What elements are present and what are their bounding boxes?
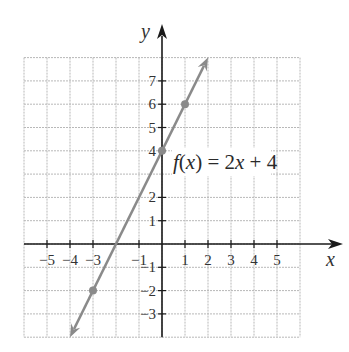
data-point [89, 287, 97, 295]
data-point [181, 100, 189, 108]
y-tick-label: −2 [140, 283, 156, 299]
x-tick-label: −5 [39, 252, 55, 268]
y-tick-label: 2 [149, 189, 157, 205]
x-tick-label: 2 [204, 252, 212, 268]
x-tick-label: 5 [273, 252, 281, 268]
x-tick-label: 1 [181, 252, 189, 268]
function-label: f(x) = 2x + 4 [173, 150, 278, 174]
function-label-part: + 4 [244, 150, 277, 174]
x-tick-label: 3 [227, 252, 235, 268]
data-point [158, 147, 166, 155]
x-tick-label: 4 [250, 252, 258, 268]
function-label-part: ) = 2 [195, 150, 235, 174]
y-tick-label: 1 [149, 213, 157, 229]
x-tick-label: −3 [85, 252, 101, 268]
x-tick-label: −4 [62, 252, 78, 268]
y-tick-label: 7 [149, 73, 157, 89]
y-axis-label: y [139, 20, 150, 43]
function-graph: −5−4−3−112345765421−1−2−3 yxf(x) = 2x + … [0, 0, 349, 352]
x-axis-label: x [325, 248, 335, 270]
y-tick-label: 4 [149, 143, 157, 159]
y-tick-label: 6 [149, 96, 157, 112]
function-label-part: ( [179, 150, 186, 174]
y-tick-label: −3 [140, 306, 156, 322]
y-tick-label: −1 [140, 259, 156, 275]
y-tick-label: 5 [149, 120, 157, 136]
